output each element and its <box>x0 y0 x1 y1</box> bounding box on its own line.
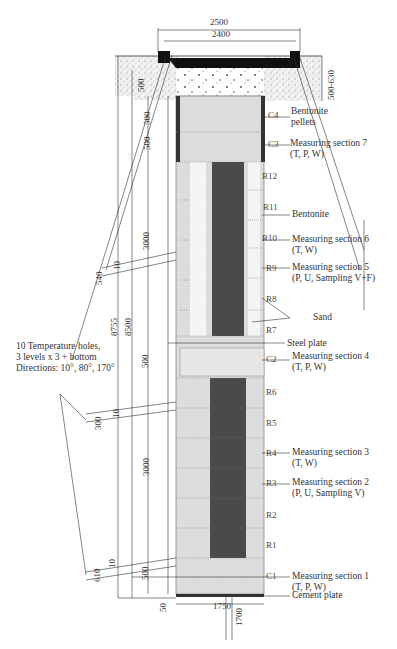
block-r6: R6 <box>266 387 277 397</box>
dim-500-630: 500-630 <box>326 70 336 100</box>
block-c1: C1 <box>266 571 277 581</box>
diagram-canvas <box>0 0 397 649</box>
dim-1750: 1750 <box>213 601 231 611</box>
dim-top-500-c: 500 <box>142 137 152 151</box>
label-cement-plate: Cement plate <box>292 590 342 601</box>
block-r11: R11 <box>263 202 278 212</box>
dim-upper-3000: 3000 <box>141 232 151 250</box>
label-bentonite: Bentonite <box>292 209 329 220</box>
dim-lower-3000: 3000 <box>141 458 151 476</box>
dim-hole-upper-10: 10 <box>112 261 122 270</box>
dim-mid-500: 500 <box>140 355 150 369</box>
block-r1: R1 <box>266 540 277 550</box>
dim-hole-300: 300 <box>93 417 103 431</box>
dim-2400: 2400 <box>212 29 230 39</box>
label-measuring-section-5: Measuring section 5 (P, U, Sampling V+F) <box>292 262 375 284</box>
dim-hole-mid-10: 10 <box>111 409 121 418</box>
block-r7: R7 <box>266 325 277 335</box>
label-steel-plate: Steel plate <box>287 338 327 349</box>
block-c3: C3 <box>268 139 279 149</box>
block-r9: R9 <box>266 263 277 273</box>
dim-50: 50 <box>158 603 168 612</box>
label-sand: Sand <box>313 312 332 323</box>
dim-hole-low-10: 10 <box>107 559 117 568</box>
dim-bottom-500: 500 <box>140 567 150 581</box>
dim-top-500-a: 500 <box>136 79 146 93</box>
block-r8: R8 <box>266 294 277 304</box>
label-bentonite-pellets: Bentonite pellets <box>291 106 328 128</box>
dim-top-500-b: 500 <box>142 112 152 126</box>
dim-1700: 1700 <box>234 608 244 626</box>
dim-8755: 8755 <box>109 318 119 336</box>
block-c4: C4 <box>268 110 279 120</box>
label-measuring-section-3: Measuring section 3 (T, W) <box>292 447 369 469</box>
block-r10: R10 <box>262 233 277 243</box>
buffer-column <box>176 96 265 597</box>
block-r12: R12 <box>262 171 277 181</box>
dim-8500: 8500 <box>123 318 133 336</box>
block-r2: R2 <box>266 510 277 520</box>
dim-hole-610: 610 <box>92 569 102 583</box>
block-c2: C2 <box>266 354 277 364</box>
block-r4: R4 <box>266 448 277 458</box>
label-measuring-section-4: Measuring section 4 (T, P, W) <box>292 351 369 373</box>
label-measuring-section-2: Measuring section 2 (P, U, Sampling V) <box>292 477 369 499</box>
dim-2500: 2500 <box>210 17 228 27</box>
label-measuring-section-6: Measuring section 6 (T, W) <box>292 234 369 256</box>
dim-hole-540: 540 <box>94 272 104 286</box>
label-measuring-section-7: Measuring section 7 (T, P, W) <box>290 138 367 160</box>
block-r5: R5 <box>266 418 277 428</box>
label-temperature-holes: 10 Temperature holes, 3 levels x 3 + bot… <box>16 341 115 374</box>
block-r3: R3 <box>266 478 277 488</box>
